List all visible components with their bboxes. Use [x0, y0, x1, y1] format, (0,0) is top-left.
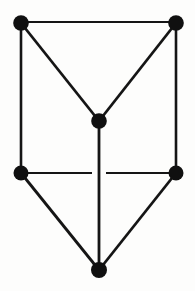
vertex-bottom — [91, 262, 107, 278]
graph-canvas — [0, 0, 195, 291]
vertex-center — [91, 113, 107, 129]
vertex-middle-left — [14, 166, 29, 181]
graph-figure — [0, 0, 195, 291]
vertex-top-right — [168, 15, 184, 31]
vertex-top-left — [13, 15, 29, 31]
figure-background — [0, 0, 195, 291]
vertex-middle-right — [169, 166, 184, 181]
